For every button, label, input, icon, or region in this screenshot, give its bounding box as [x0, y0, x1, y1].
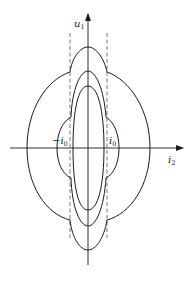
label-u1: u1: [74, 18, 85, 31]
label-minus-i0: −i0: [52, 135, 68, 148]
outer-curve: [27, 47, 150, 250]
diagram-canvas: u1 i2 −i0 i0: [0, 0, 193, 289]
label-plus-i0: i0: [109, 135, 116, 148]
label-i2: i2: [168, 154, 175, 167]
